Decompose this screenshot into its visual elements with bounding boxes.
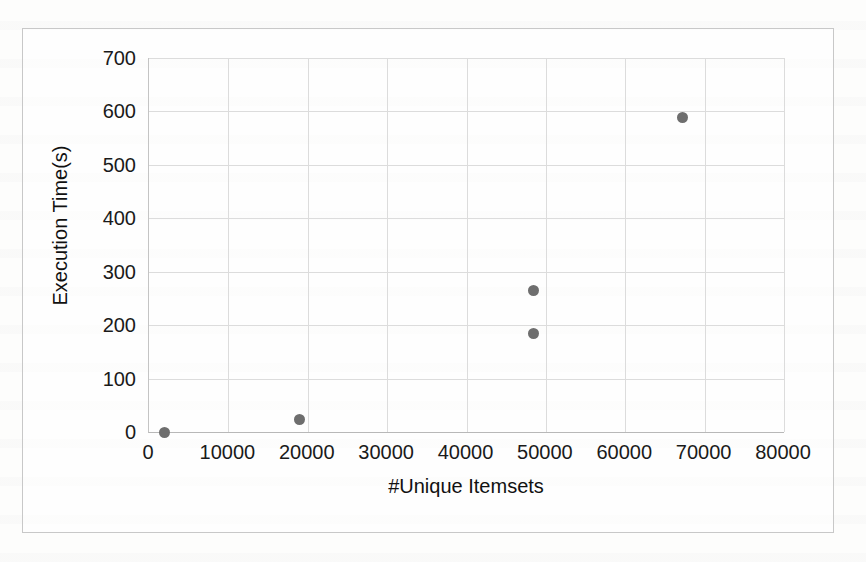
chart-figure: 0100200300400500600700 01000020000300004… — [22, 28, 834, 533]
gridline-vertical — [784, 58, 785, 432]
data-point — [159, 427, 170, 438]
x-tick-label: 50000 — [517, 441, 573, 464]
x-tick-label: 60000 — [596, 441, 652, 464]
data-point — [294, 414, 305, 425]
gridline-vertical — [387, 58, 388, 432]
y-tick-label: 700 — [103, 47, 136, 70]
y-tick-label: 500 — [103, 153, 136, 176]
gridline-vertical — [546, 58, 547, 432]
y-tick-label: 200 — [103, 314, 136, 337]
x-tick-label: 10000 — [200, 441, 256, 464]
gridline-vertical — [308, 58, 309, 432]
y-axis-title: Execution Time(s) — [49, 96, 72, 356]
x-axis-title: #Unique Itemsets — [148, 475, 784, 498]
data-point — [677, 112, 688, 123]
y-tick-label: 300 — [103, 260, 136, 283]
x-tick-label: 80000 — [755, 441, 811, 464]
x-tick-label: 70000 — [676, 441, 732, 464]
plot-area — [148, 58, 784, 433]
x-axis-tick-labels: 0100002000030000400005000060000700008000… — [148, 441, 784, 471]
gridline-vertical — [625, 58, 626, 432]
x-tick-label: 30000 — [358, 441, 414, 464]
y-tick-label: 0 — [125, 421, 136, 444]
gridline-vertical — [467, 58, 468, 432]
y-tick-label: 600 — [103, 100, 136, 123]
y-tick-label: 400 — [103, 207, 136, 230]
x-tick-label: 0 — [142, 441, 153, 464]
data-point — [528, 285, 539, 296]
gridline-vertical — [705, 58, 706, 432]
x-tick-label: 20000 — [279, 441, 335, 464]
x-tick-label: 40000 — [438, 441, 494, 464]
gridline-vertical — [228, 58, 229, 432]
y-tick-label: 100 — [103, 367, 136, 390]
data-point — [528, 328, 539, 339]
y-axis-tick-labels: 0100200300400500600700 — [23, 58, 136, 433]
